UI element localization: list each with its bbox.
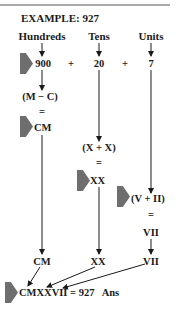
column-tens: Tens (88, 31, 110, 42)
tens-expression: (X + X) (82, 142, 115, 153)
collected-hundreds: CM (33, 256, 51, 267)
tens-result: XX (90, 175, 105, 186)
collected-tens: XX (90, 256, 105, 267)
column-units: Units (138, 31, 163, 42)
column-hundreds: Hundreds (19, 31, 66, 42)
hundreds-value: 900 (35, 58, 51, 69)
final-answer: CMXXVII = 927 Ans (19, 287, 119, 298)
hundreds-expression: (M − C) (22, 91, 58, 102)
units-expression: (V + II) (131, 193, 165, 204)
units-result: VII (143, 227, 159, 238)
plus-sign: + (122, 58, 128, 69)
example-title: EXAMPLE: 927 (21, 13, 99, 24)
equals-sign: = (148, 209, 154, 220)
plus-sign: + (68, 58, 74, 69)
hundreds-result: CM (34, 122, 52, 133)
collected-units: VII (143, 256, 159, 267)
tens-value: 20 (94, 58, 105, 69)
units-value: 7 (148, 58, 153, 69)
equals-sign: = (39, 106, 45, 117)
equals-sign: = (96, 157, 102, 168)
